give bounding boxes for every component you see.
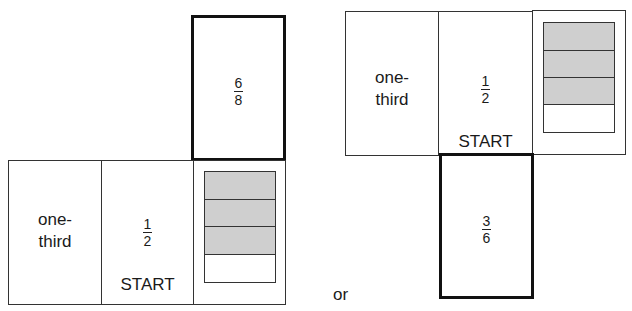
word-line-2: third [346,89,438,111]
unshaded-band [544,105,614,132]
or-connector: or [333,285,348,305]
net-a-top-cell: 6 8 [191,15,286,161]
denominator: 6 [483,231,491,245]
shaded-band [205,227,275,255]
word-line-2: third [9,231,101,253]
numerator: 1 [144,217,152,231]
start-label: START [102,275,193,295]
numerator: 6 [235,76,243,90]
numerator: 1 [482,74,490,88]
shaded-bar-three-quarters [543,22,615,133]
shaded-bar-three-quarters [204,171,276,283]
shaded-band [544,78,614,105]
net-a-cell-shaded [193,160,286,305]
net-b-cell-start: 1 2 START [438,11,533,156]
numerator: 3 [483,214,491,228]
shaded-band [205,200,275,227]
denominator: 8 [235,93,243,107]
denominator: 2 [144,234,152,248]
fraction-three-sixths: 3 6 [482,214,491,245]
fraction-one-half: 1 2 [481,74,490,105]
denominator: 2 [482,91,490,105]
shaded-band [544,51,614,78]
shaded-band [205,172,275,200]
word-line-1: one- [346,67,438,89]
fraction-six-eighths: 6 8 [234,76,243,107]
word-line-1: one- [9,209,101,231]
net-a-cell-one-third: one- third [8,160,102,305]
net-b-cell-shaded [532,10,626,155]
fraction-one-half: 1 2 [143,217,152,248]
net-b-bottom-cell: 3 6 [439,153,534,299]
net-b-cell-one-third: one- third [345,11,439,156]
start-label: START [439,132,532,152]
net-a-cell-start: 1 2 START [101,160,194,305]
shaded-band [544,23,614,51]
unshaded-band [205,255,275,282]
